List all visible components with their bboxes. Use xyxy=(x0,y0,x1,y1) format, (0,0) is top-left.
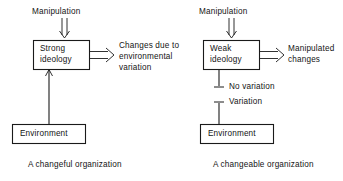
right-output-block-arrow xyxy=(260,48,285,62)
left-core-box-label-line1: Strong xyxy=(40,44,65,54)
left-manipulation-label: Manipulation xyxy=(32,7,80,17)
left-source-box-label: Environment xyxy=(20,129,68,139)
left-environment-to-ideology-link xyxy=(46,70,53,125)
diagram-graphics xyxy=(0,0,343,181)
left-output-label-line2: environmental xyxy=(119,52,173,62)
left-output-label-line1: Changes due to xyxy=(119,41,179,51)
right-source-box-label: Environment xyxy=(208,129,256,139)
figure-canvas: Manipulation Strong ideology Changes due… xyxy=(0,0,343,181)
left-output-label-line3: variation xyxy=(119,63,151,73)
right-manipulation-arrow xyxy=(227,18,237,38)
right-output-label-line2: changes xyxy=(288,55,320,65)
right-manipulation-label: Manipulation xyxy=(199,7,247,17)
right-link-label-variation: Variation xyxy=(229,97,262,107)
right-panel-caption: A changeable organization xyxy=(213,160,314,169)
left-output-block-arrow xyxy=(90,48,115,62)
left-core-box-label-line2: ideology xyxy=(40,55,72,65)
right-blocked-link xyxy=(214,70,224,125)
right-core-box-label-line2: ideology xyxy=(210,55,242,65)
right-link-label-no-variation: No variation xyxy=(229,82,275,92)
right-core-box-label-line1: Weak xyxy=(210,44,231,54)
left-manipulation-arrow xyxy=(60,18,70,38)
left-panel-caption: A changeful organization xyxy=(28,160,122,169)
right-output-label-line1: Manipulated xyxy=(288,44,334,54)
